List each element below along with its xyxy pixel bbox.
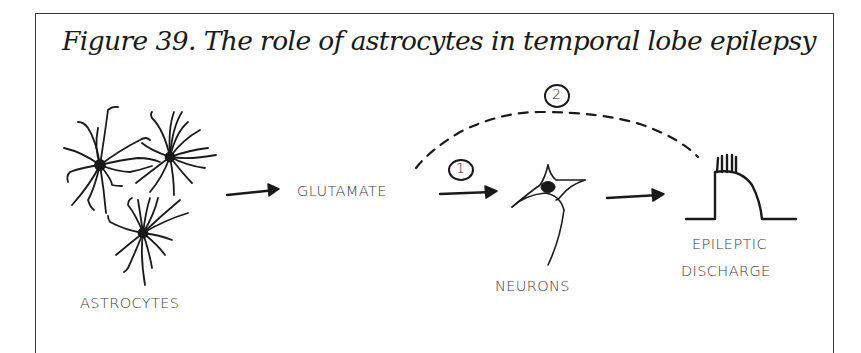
label-astrocytes: ASTROCYTES [80, 295, 179, 311]
pathway-1-number: 1 [456, 160, 465, 176]
astrocyte-icon [136, 112, 216, 195]
arrow-icon [440, 186, 497, 198]
pathway-2-number: 2 [552, 86, 561, 102]
label-neurons: NEURONS [495, 278, 570, 294]
label-epileptic: EPILEPTIC [692, 236, 767, 252]
arrow-icon [227, 184, 279, 196]
epileptic-discharge-icon [686, 155, 796, 219]
label-glutamate: GLUTAMATE [297, 183, 387, 199]
astrocyte-icon [108, 198, 188, 285]
label-discharge: DISCHARGE [681, 263, 771, 279]
astrocyte-icon [64, 107, 160, 213]
arrow-icon [607, 189, 664, 201]
neuron-icon [512, 165, 585, 265]
